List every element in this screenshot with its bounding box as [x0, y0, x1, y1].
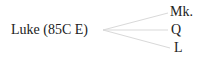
edge-luke-l — [103, 30, 170, 48]
target-node-q: Q — [171, 23, 181, 37]
target-node-mk: Mk. — [170, 5, 193, 19]
source-node-luke: Luke (85C E) — [11, 23, 88, 37]
target-node-l: L — [174, 41, 183, 55]
edge-luke-mk — [103, 13, 168, 30]
